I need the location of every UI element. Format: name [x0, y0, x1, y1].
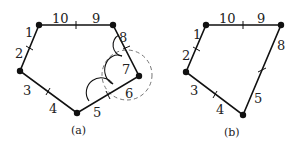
- panel-b: 1 2 3 4 5 8 9 10 (b): [182, 11, 285, 139]
- label-5: 5: [254, 91, 262, 106]
- label-1: 1: [193, 27, 201, 42]
- label-9: 9: [92, 11, 100, 26]
- diagram: 1 2 3 4 5 6 7 8 9 10 (a) 1 2 3 4 5 8 9 1…: [0, 0, 300, 146]
- vertex: [240, 112, 246, 118]
- vertex: [203, 22, 209, 28]
- label-8: 8: [277, 38, 285, 53]
- label-7: 7: [122, 62, 130, 77]
- vertex: [136, 73, 142, 79]
- label-1: 1: [25, 25, 33, 40]
- label-10: 10: [52, 11, 69, 26]
- caption-a: (a): [71, 124, 86, 137]
- label-10: 10: [219, 11, 236, 26]
- label-9: 9: [257, 11, 265, 26]
- vertex: [17, 68, 23, 74]
- label-6: 6: [125, 86, 133, 101]
- caption-b: (b): [224, 126, 240, 139]
- vertex: [278, 22, 284, 28]
- label-5: 5: [93, 105, 101, 120]
- label-2: 2: [182, 48, 190, 63]
- label-4: 4: [216, 102, 224, 117]
- panel-a: 1 2 3 4 5 6 7 8 9 10 (a): [15, 11, 152, 137]
- label-3: 3: [190, 83, 198, 98]
- vertex: [110, 22, 116, 28]
- vertex: [74, 110, 80, 116]
- label-2: 2: [15, 46, 23, 61]
- label-3: 3: [23, 83, 31, 98]
- vertex: [183, 69, 189, 75]
- vertex: [36, 22, 42, 28]
- label-4: 4: [49, 101, 57, 116]
- label-8: 8: [119, 30, 127, 45]
